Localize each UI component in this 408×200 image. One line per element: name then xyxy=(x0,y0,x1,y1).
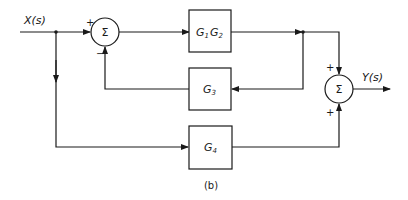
g3-to-sum1-line xyxy=(105,47,189,89)
block-g1g2: G1G2 xyxy=(189,10,231,52)
feedback-to-g3-line xyxy=(232,32,303,89)
sum1-plus-sign: + xyxy=(86,17,94,28)
block-diagram: X(s) Σ + − G1G2 G3 G4 xyxy=(0,0,408,200)
sum2-top-plus-sign: + xyxy=(326,62,334,73)
sum2-symbol: Σ xyxy=(336,83,343,96)
sum2-bottom-plus-sign: + xyxy=(326,107,334,118)
block-g4: G4 xyxy=(189,126,232,169)
block-g3: G3 xyxy=(189,68,231,110)
output-label: Y(s) xyxy=(362,71,383,84)
sum1-symbol: Σ xyxy=(102,26,109,39)
g4-to-sum2-line xyxy=(232,104,339,147)
input-label: X(s) xyxy=(23,14,46,27)
summing-junction-1: Σ + − xyxy=(86,17,119,59)
figure-caption: (b) xyxy=(204,180,218,191)
sum1-minus-sign: − xyxy=(96,48,104,59)
